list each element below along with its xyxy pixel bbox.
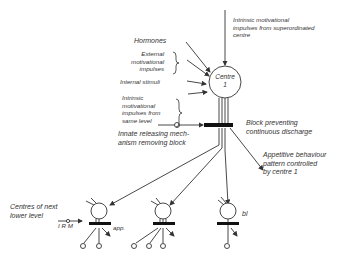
centre-1-label: Centre 1 bbox=[211, 73, 239, 88]
block-label-line: continuous discharge bbox=[246, 128, 312, 137]
lower-level-label-line: Centres of next bbox=[10, 203, 57, 212]
centre-label: Centre bbox=[211, 73, 239, 81]
irm-label: Innate releasing mech- anism removing bl… bbox=[118, 130, 189, 147]
appetitive-label-line: by centre 1 bbox=[263, 168, 326, 177]
intrinsic-label-line: impulses from bbox=[122, 109, 161, 117]
top-label-line: Intrinsic motivational bbox=[233, 16, 315, 24]
intrinsic-label-line: same level bbox=[122, 117, 161, 125]
block-label-line: Block preventing bbox=[246, 119, 312, 128]
appetitive-label: Appetitive behaviour pattern controlled … bbox=[263, 151, 326, 177]
top-label-line: impulses from superordinated bbox=[233, 24, 315, 32]
irm-abbrev-label: I R M bbox=[58, 222, 73, 230]
block-bar-main bbox=[204, 123, 233, 127]
lower-level-label: Centres of next lower level bbox=[10, 203, 57, 220]
top-label-line: centre bbox=[233, 31, 315, 39]
intrinsic-label-line: motivational bbox=[122, 102, 161, 110]
block-label: Block preventing continuous discharge bbox=[246, 119, 312, 136]
lower-level-label-line: lower level bbox=[10, 212, 57, 221]
top-label: Intrinsic motivational impulses from sup… bbox=[233, 16, 315, 39]
intrinsic-label-line: Intrinsic bbox=[122, 94, 161, 102]
appetitive-label-line: pattern controlled bbox=[263, 160, 326, 169]
irm-label-line: Innate releasing mech- bbox=[118, 130, 189, 139]
external-label-line: motivational bbox=[131, 58, 164, 66]
external-label-line: External bbox=[131, 50, 164, 58]
app-label: app. bbox=[113, 224, 125, 232]
external-label-line: impulses bbox=[131, 65, 164, 73]
hormones-label: Hormones bbox=[134, 37, 166, 46]
internal-stimuli-label: Internal stimuli bbox=[120, 78, 160, 86]
centre-number: 1 bbox=[211, 81, 239, 89]
irm-label-line: anism removing block bbox=[118, 139, 189, 148]
appetitive-label-line: Appetitive behaviour bbox=[263, 151, 326, 160]
intrinsic-label: Intrinsic motivational impulses from sam… bbox=[122, 94, 161, 124]
bl-label: bl bbox=[242, 210, 247, 219]
external-label: External motivational impulses bbox=[131, 50, 164, 73]
